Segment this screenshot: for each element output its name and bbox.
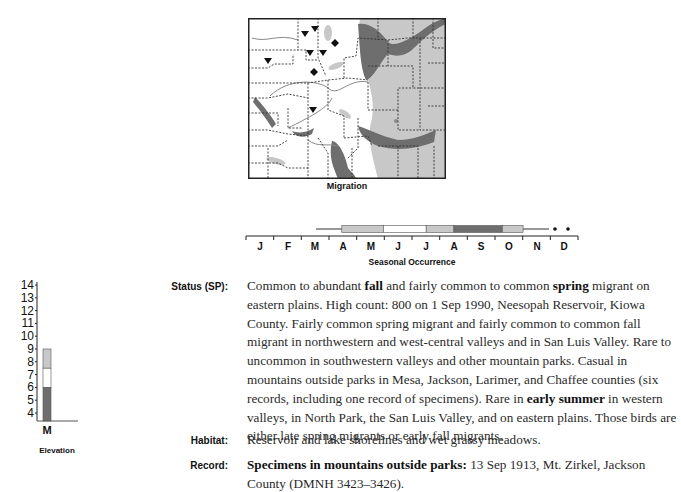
record-text-emphasis: Specimens in mountains outside parks: xyxy=(247,457,467,472)
month-label: N xyxy=(523,241,551,252)
elevation-tick: 14 xyxy=(10,279,34,291)
colorado-range-map xyxy=(248,18,446,179)
month-label: F xyxy=(274,241,302,252)
record-text: Specimens in mountains outside parks: 13… xyxy=(247,456,647,492)
status-text-emphasis: spring xyxy=(553,278,589,293)
elevation-tick: 6 xyxy=(10,381,34,393)
status-label: Status (SP): xyxy=(171,281,228,292)
elevation-caption: Elevation xyxy=(27,446,87,455)
status-text-emphasis: early summer xyxy=(527,391,605,406)
record-dot xyxy=(553,227,557,231)
status-text-part: migrant on eastern plains. High count: 8… xyxy=(247,278,671,406)
habitat-text: Reservoir and lake shorelines and wet gr… xyxy=(247,431,677,450)
month-label: A xyxy=(440,241,468,252)
record-dot xyxy=(566,227,570,231)
elevation-tick: 8 xyxy=(10,356,34,368)
elevation-tick: 11 xyxy=(10,317,34,329)
seasonal-caption: Seasonal Occurrence xyxy=(246,257,578,267)
habitat-label: Habitat: xyxy=(191,435,228,446)
elevation-tick: 12 xyxy=(10,305,34,317)
month-label: S xyxy=(467,241,495,252)
elevation-category-label: M xyxy=(38,424,56,436)
elevation-chart: 14 13 12 11 10 9 8 7 6 5 4 xyxy=(0,278,100,438)
month-label: J xyxy=(412,241,440,252)
migration-map xyxy=(248,18,446,179)
record-label: Record: xyxy=(190,460,228,471)
month-label: M xyxy=(301,241,329,252)
elevation-tick: 13 xyxy=(10,292,34,304)
elevation-tick: 10 xyxy=(10,330,34,342)
status-text-emphasis: fall xyxy=(365,278,383,293)
month-label: M xyxy=(357,241,385,252)
elevation-tick: 4 xyxy=(10,407,34,419)
elevation-tick: 7 xyxy=(10,369,34,381)
month-label: O xyxy=(495,241,523,252)
month-label: J xyxy=(384,241,412,252)
elevation-tick: 9 xyxy=(10,343,34,355)
month-label: A xyxy=(329,241,357,252)
month-label: J xyxy=(246,241,274,252)
status-text: Common to abundant fall and fairly commo… xyxy=(247,277,677,446)
elevation-tick: 5 xyxy=(10,394,34,406)
month-label: D xyxy=(550,241,578,252)
status-text-part: and fairly common to common xyxy=(383,278,553,293)
map-caption: Migration xyxy=(248,181,446,191)
status-text-part: Common to abundant xyxy=(247,278,365,293)
